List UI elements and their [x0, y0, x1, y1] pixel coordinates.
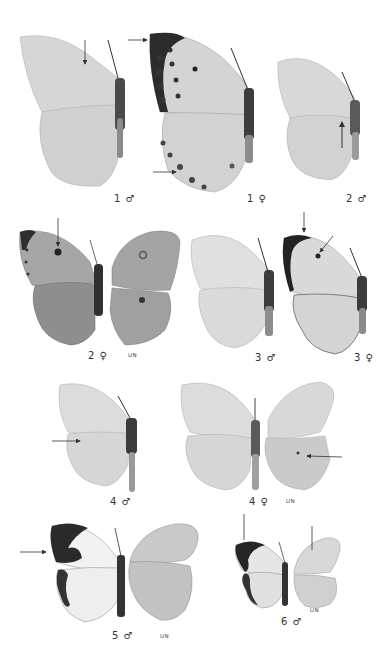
specimen-4-female	[181, 382, 342, 490]
figure-label-1-female: 1 ♀	[247, 193, 267, 204]
figure-label-4-male: 4 ♂	[110, 496, 132, 507]
specimen-6-male	[235, 514, 340, 608]
specimen-2-male	[278, 59, 360, 180]
underside-label-2-female: UN	[128, 352, 137, 358]
figure-label-4-female: 4 ♀	[249, 496, 269, 507]
specimen-1-male	[20, 36, 125, 187]
figure-label-3-female: 3 ♀	[354, 352, 374, 363]
specimen-1-female	[128, 33, 254, 192]
specimen-5-male	[20, 523, 198, 622]
figure-label-1-male: 1 ♂	[114, 193, 136, 204]
underside-label-4-female: UN	[286, 498, 295, 504]
specimen-2-female	[20, 218, 181, 345]
specimen-plate	[0, 0, 390, 669]
figure-label-6-male: 6 ♂	[281, 616, 303, 627]
underside-label-5-male: UN	[160, 633, 169, 639]
figure-label-5-male: 5 ♂	[112, 630, 134, 641]
specimen-4-male	[52, 384, 137, 492]
underside-label-6-male: UN	[310, 607, 319, 613]
specimen-3-male	[191, 236, 274, 349]
figure-label-2-female: 2 ♀	[88, 350, 108, 361]
figure-label-3-male: 3 ♂	[255, 352, 277, 363]
specimen-3-female	[283, 212, 367, 354]
figure-label-2-male: 2 ♂	[346, 193, 368, 204]
